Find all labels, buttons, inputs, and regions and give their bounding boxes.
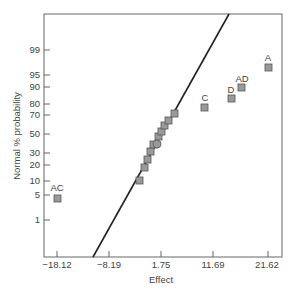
point-D xyxy=(228,95,235,102)
data-point xyxy=(147,148,154,155)
y-tick-label: 70 xyxy=(29,109,40,120)
label-AD: AD xyxy=(235,73,248,84)
y-tick-label: 80 xyxy=(29,98,40,109)
label-D: D xyxy=(228,84,235,95)
label-C: C xyxy=(202,92,209,103)
y-tick-label: 99 xyxy=(29,44,40,55)
label-A: A xyxy=(265,52,272,63)
data-point xyxy=(144,156,151,163)
label-AC: AC xyxy=(50,182,63,193)
x-tick-label: 21.62 xyxy=(255,259,279,270)
y-tick-label: 1 xyxy=(35,214,40,225)
x-tick-label: −8.19 xyxy=(97,259,121,270)
point-C xyxy=(201,104,208,111)
point-AD xyxy=(238,84,245,91)
y-axis-title: Normal % probability xyxy=(11,92,22,180)
data-points xyxy=(54,64,272,202)
point-AC xyxy=(54,195,61,202)
data-point xyxy=(171,110,178,117)
y-tick-label: 5 xyxy=(35,189,40,200)
point-A xyxy=(265,64,272,71)
data-point xyxy=(165,117,172,124)
y-tick-label: 95 xyxy=(29,69,40,80)
x-tick-label: 11.69 xyxy=(201,259,224,270)
data-point xyxy=(141,164,148,171)
y-tick-label: 90 xyxy=(29,81,40,92)
data-point-circle xyxy=(153,140,161,148)
y-tick-label: 30 xyxy=(29,147,40,158)
x-axis xyxy=(57,251,268,257)
normal-probability-plot: 99 95 90 80 70 50 30 20 10 5 1 Normal % … xyxy=(0,0,295,293)
y-tick-label: 20 xyxy=(29,159,40,170)
x-tick-label: −18.12 xyxy=(42,259,71,270)
x-axis-title: Effect xyxy=(149,274,173,285)
data-point xyxy=(136,177,143,184)
y-axis xyxy=(44,50,50,220)
x-tick-label: 1.75 xyxy=(152,259,171,270)
y-tick-label: 10 xyxy=(29,175,40,186)
y-tick-label: 50 xyxy=(29,128,40,139)
plot-frame xyxy=(44,14,282,257)
